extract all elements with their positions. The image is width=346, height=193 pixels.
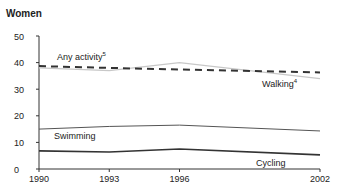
x-tick-label: 1996: [169, 174, 189, 184]
series-line-walking: [39, 63, 320, 79]
line-chart: 010203040501990199319962002Any activity5…: [0, 0, 346, 193]
y-tick-label: 30: [14, 85, 24, 95]
y-tick-label: 40: [14, 58, 24, 68]
y-tick-label: 0: [14, 165, 19, 175]
x-tick-label: 1993: [99, 174, 119, 184]
y-tick-label: 50: [14, 32, 24, 42]
label-walking: Walking4: [262, 78, 298, 89]
label-any-activity: Any activity5: [57, 51, 107, 62]
x-tick-label: 2002: [310, 174, 330, 184]
x-tick-label: 1990: [29, 174, 49, 184]
label-cycling: Cycling: [256, 158, 286, 168]
label-swimming: Swimming: [54, 131, 96, 141]
series-line-cycling: [39, 149, 320, 155]
y-tick-label: 10: [14, 138, 24, 148]
y-tick-label: 20: [14, 111, 24, 121]
